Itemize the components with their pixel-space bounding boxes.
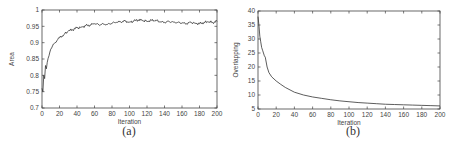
x-tick-label: 60	[91, 110, 99, 117]
x-tick-label: 100	[344, 111, 355, 118]
x-tick-label: 0	[40, 110, 44, 117]
x-tick-label: 120	[362, 111, 373, 118]
x-tick-label: 200	[435, 111, 446, 118]
x-tick-label: 160	[398, 111, 409, 118]
x-tick-label: 180	[194, 110, 205, 117]
x-tick-label: 140	[159, 110, 170, 117]
x-tick-label: 0	[256, 111, 260, 118]
x-tick-label: 20	[56, 110, 64, 117]
data-series-line	[42, 19, 217, 92]
caption-a: (a)	[109, 124, 149, 139]
plot-frame	[42, 10, 217, 108]
x-tick-label: 40	[291, 111, 299, 118]
y-tick-label: 0.9	[30, 39, 39, 46]
y-axis-label: Overlapping	[232, 42, 240, 77]
y-tick-label: 1	[35, 6, 39, 13]
x-tick-label: 20	[273, 111, 281, 118]
x-tick-label: 60	[309, 111, 317, 118]
x-tick-label: 120	[142, 110, 153, 117]
plot-frame	[258, 11, 440, 109]
x-tick-label: 40	[73, 110, 81, 117]
x-tick-label: 80	[108, 110, 116, 117]
x-tick-label: 100	[124, 110, 135, 117]
caption-b: (b)	[333, 124, 373, 139]
chart-panel-b: 0204060801001201401601802005101520253035…	[227, 0, 454, 150]
x-tick-label: 200	[212, 110, 223, 117]
y-tick-label: 35	[248, 21, 256, 28]
data-series-line	[258, 17, 440, 106]
chart-panel-a: 0204060801001201401601802000.70.750.80.8…	[0, 0, 227, 150]
y-tick-label: 0.85	[26, 55, 39, 62]
y-tick-label: 30	[248, 35, 256, 42]
x-tick-label: 140	[380, 111, 391, 118]
y-tick-label: 10	[248, 91, 256, 98]
x-tick-label: 80	[327, 111, 335, 118]
y-tick-label: 0.75	[26, 88, 39, 95]
y-tick-label: 5	[251, 105, 255, 112]
x-tick-label: 180	[416, 111, 427, 118]
y-tick-label: 0.7	[30, 104, 39, 111]
y-tick-label: 40	[248, 7, 256, 14]
y-axis-label: Area	[8, 52, 15, 66]
x-tick-label: 160	[177, 110, 188, 117]
y-tick-label: 25	[248, 49, 256, 56]
y-tick-label: 0.95	[26, 23, 39, 30]
y-tick-label: 0.8	[30, 72, 39, 79]
y-tick-label: 20	[248, 63, 256, 70]
y-tick-label: 15	[248, 77, 256, 84]
